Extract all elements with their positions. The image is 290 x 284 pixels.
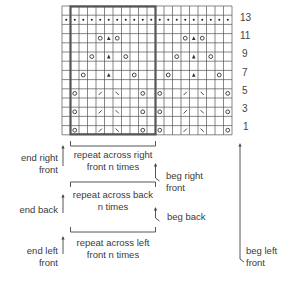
- label-end-back: end back: [0, 204, 58, 216]
- row-number-13: 13: [240, 12, 251, 23]
- row-number-11: 11: [240, 30, 250, 41]
- label-repeat-back: repeat across back n times: [63, 189, 163, 212]
- label-repeat-right-front: repeat across right front n times: [63, 149, 163, 172]
- label-end-right-front: end right front: [0, 152, 58, 175]
- label-end-left-front: end left front: [0, 245, 58, 268]
- row-number-9: 9: [242, 48, 248, 59]
- knitting-chart-diagram: 13 11 9 7 5 3 1 end right front repeat a…: [0, 0, 290, 284]
- label-beg-back: beg back: [167, 211, 206, 223]
- row-number-7: 7: [242, 67, 248, 78]
- row-number-5: 5: [242, 85, 248, 96]
- label-beg-left-front: beg left front: [246, 245, 277, 268]
- label-beg-right-front: beg right front: [166, 170, 203, 193]
- label-repeat-left-front: repeat across left front n times: [63, 237, 163, 260]
- row-number-3: 3: [242, 103, 248, 114]
- row-number-1: 1: [243, 121, 249, 132]
